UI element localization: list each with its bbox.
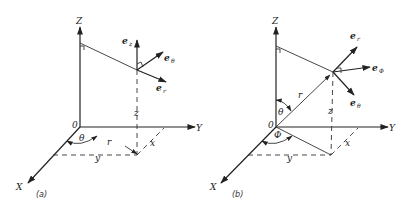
e-phi-label: e Φ xyxy=(372,63,384,74)
svg-text:r: r xyxy=(357,35,361,42)
svg-text:e: e xyxy=(350,98,356,108)
svg-text:e: e xyxy=(164,53,170,63)
r-label: r xyxy=(107,137,112,147)
svg-text:Φ: Φ xyxy=(379,67,384,74)
r-arrow xyxy=(125,146,137,154)
svg-text:θ: θ xyxy=(357,102,361,109)
r-label: r xyxy=(298,90,303,100)
r-vector xyxy=(276,75,330,127)
z-coord-label: z xyxy=(327,106,333,116)
panel-b: Z Y X 0 r z y x θ Φ e r xyxy=(209,16,396,199)
theta-label: θ xyxy=(278,107,284,117)
svg-text:z: z xyxy=(128,40,133,47)
svg-text:e: e xyxy=(156,83,162,93)
origin-label: 0 xyxy=(268,120,274,130)
panel-caption: (a) xyxy=(36,190,47,199)
e-r-label: e r xyxy=(350,31,361,42)
svg-text:r: r xyxy=(163,87,167,94)
x-coord-label: x xyxy=(150,138,155,148)
e-theta-label: e θ xyxy=(164,53,175,64)
e-theta-vector xyxy=(333,72,354,95)
svg-text:e: e xyxy=(350,31,356,41)
e-z-label: e z xyxy=(122,36,133,47)
e-r-label: e r xyxy=(156,83,167,94)
panel-caption: (b) xyxy=(232,190,243,199)
y-axis-label: Y xyxy=(196,123,203,133)
y-coord-label: y xyxy=(94,153,101,163)
radial-line xyxy=(80,43,137,70)
perpendicular-line xyxy=(276,46,333,72)
x-coord-label: x xyxy=(345,138,350,148)
e-theta-vector xyxy=(137,52,163,70)
svg-text:θ: θ xyxy=(171,57,175,64)
e-theta-label: e θ xyxy=(350,98,361,109)
e-r-vector xyxy=(137,70,166,82)
y-axis-label: Y xyxy=(389,123,396,133)
z-coord-label: z xyxy=(133,108,139,118)
phi-label: Φ xyxy=(274,130,281,140)
theta-label: θ xyxy=(79,133,85,143)
svg-text:e: e xyxy=(372,63,378,73)
z-axis-label: Z xyxy=(75,16,83,26)
panel-a: Z Y X 0 z y x r θ e z e θ xyxy=(15,16,203,199)
origin-label: 0 xyxy=(72,120,78,130)
coordinate-systems-figure: Z Y X 0 z y x r θ e z e θ xyxy=(0,0,401,214)
x-axis-label: X xyxy=(15,182,23,192)
z-axis-label: Z xyxy=(271,16,279,26)
y-coord-label: y xyxy=(286,153,293,163)
svg-text:e: e xyxy=(122,36,128,46)
x-axis-label: X xyxy=(209,182,217,192)
e-r-vector xyxy=(333,47,357,72)
